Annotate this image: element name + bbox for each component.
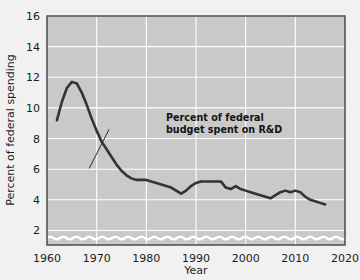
chart-figure: Percent of federal budget spent on R&D 2… — [0, 0, 360, 280]
y-tick-label: 16 — [26, 10, 40, 23]
y-tick-label: 8 — [33, 133, 40, 146]
y-tick-label: 14 — [26, 41, 40, 54]
y-axis-title: Percent of federal spending — [4, 54, 17, 206]
y-tick-label: 4 — [33, 194, 40, 207]
y-tick-label: 10 — [26, 102, 40, 115]
x-tick-label: 1980 — [132, 252, 160, 265]
axis-break-wave — [47, 237, 346, 240]
x-tick-label: 2010 — [281, 252, 309, 265]
y-tick-label: 2 — [33, 224, 40, 237]
x-tick-label: 1960 — [33, 252, 61, 265]
x-tick-label: 1970 — [83, 252, 111, 265]
line-chart: Percent of federal budget spent on R&D 2… — [0, 0, 360, 280]
y-tick-label: 12 — [26, 71, 40, 84]
y-tick-label: 6 — [33, 163, 40, 176]
x-axis-title: Year — [183, 264, 208, 277]
x-tick-label: 2000 — [232, 252, 260, 265]
annotation-line-1: Percent of federal — [166, 112, 264, 123]
x-tick-label: 2020 — [331, 252, 359, 265]
annotation-line-2: budget spent on R&D — [166, 124, 282, 135]
